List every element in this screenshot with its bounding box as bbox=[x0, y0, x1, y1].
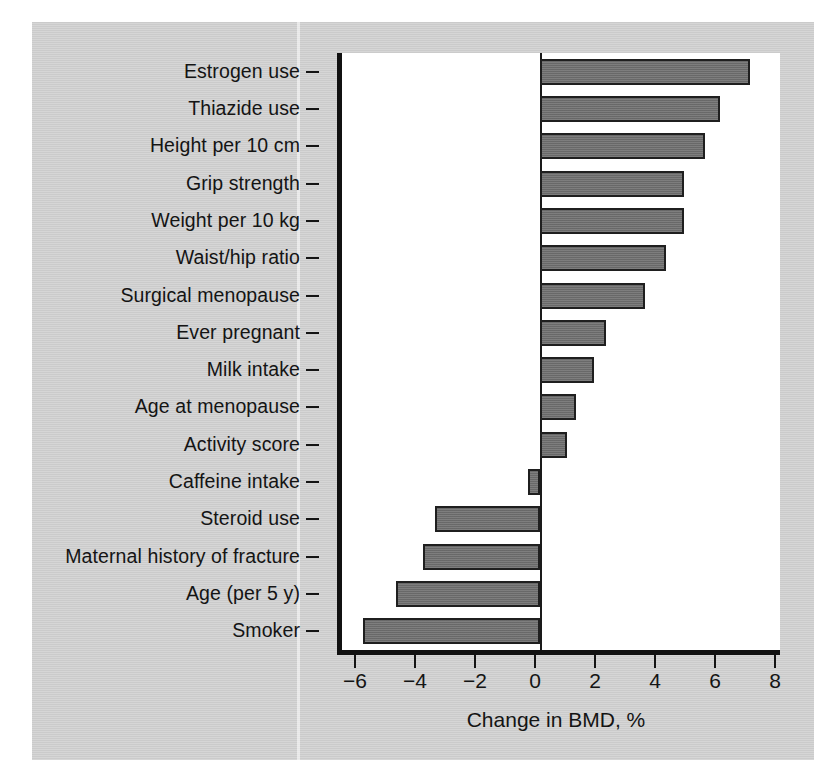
x-axis-tick bbox=[594, 655, 596, 668]
figure-panel: Estrogen useThiazide useHeight per 10 cm… bbox=[32, 22, 814, 760]
x-axis: −6−4−202468 bbox=[337, 655, 775, 715]
x-axis-tick bbox=[774, 655, 776, 668]
x-axis-tick-label: 4 bbox=[649, 670, 661, 691]
x-axis-tick-label: 0 bbox=[529, 670, 541, 691]
y-axis-tick bbox=[306, 183, 319, 185]
bar bbox=[540, 357, 594, 383]
y-axis-tick bbox=[306, 518, 319, 520]
y-axis-tick bbox=[306, 406, 319, 408]
y-axis-tick bbox=[306, 444, 319, 446]
y-axis-label: Height per 10 cm bbox=[150, 136, 300, 156]
x-axis-tick bbox=[714, 655, 716, 668]
bar bbox=[540, 133, 705, 159]
bar bbox=[540, 394, 576, 420]
y-axis-labels: Estrogen useThiazide useHeight per 10 cm… bbox=[32, 53, 319, 650]
bar bbox=[540, 320, 606, 346]
y-axis-tick bbox=[306, 369, 319, 371]
x-axis-tick-label: 2 bbox=[589, 670, 601, 691]
y-axis-tick bbox=[306, 71, 319, 73]
y-axis-label: Age at menopause bbox=[135, 397, 300, 417]
y-axis-label: Milk intake bbox=[207, 360, 300, 380]
y-axis-tick bbox=[306, 593, 319, 595]
y-axis-tick bbox=[306, 481, 319, 483]
y-axis-label: Grip strength bbox=[186, 174, 300, 194]
y-axis-tick bbox=[306, 257, 319, 259]
y-axis-tick bbox=[306, 332, 319, 334]
y-axis-label: Maternal history of fracture bbox=[65, 547, 300, 567]
y-axis-label: Activity score bbox=[184, 435, 300, 455]
y-axis-tick bbox=[306, 295, 319, 297]
y-axis-label: Ever pregnant bbox=[176, 323, 300, 343]
y-axis-tick bbox=[306, 145, 319, 147]
y-axis-label: Caffeine intake bbox=[169, 472, 300, 492]
bar bbox=[363, 618, 540, 644]
bar bbox=[540, 208, 684, 234]
x-axis-tick-label: −4 bbox=[403, 670, 427, 691]
y-axis-label: Steroid use bbox=[200, 509, 300, 529]
bar bbox=[540, 96, 720, 122]
bar bbox=[435, 506, 540, 532]
x-axis-tick bbox=[354, 655, 356, 668]
y-axis-label: Smoker bbox=[232, 621, 300, 641]
bar bbox=[540, 171, 684, 197]
y-axis-tick bbox=[306, 108, 319, 110]
y-axis-label: Age (per 5 y) bbox=[186, 584, 300, 604]
y-axis-label: Weight per 10 kg bbox=[151, 211, 300, 231]
y-axis-label: Surgical menopause bbox=[120, 286, 300, 306]
x-axis-tick bbox=[534, 655, 536, 668]
y-axis-tick bbox=[306, 220, 319, 222]
bar bbox=[540, 432, 567, 458]
bar bbox=[540, 59, 750, 85]
bar bbox=[528, 469, 540, 495]
x-axis-tick bbox=[414, 655, 416, 668]
y-axis-label: Thiazide use bbox=[188, 99, 300, 119]
x-axis-title: Change in BMD, % bbox=[337, 708, 775, 732]
x-axis-tick-label: 6 bbox=[709, 670, 721, 691]
x-axis-tick bbox=[654, 655, 656, 668]
bar bbox=[396, 581, 540, 607]
bar bbox=[540, 245, 666, 271]
plot-area bbox=[337, 53, 780, 655]
bar bbox=[423, 544, 540, 570]
x-axis-tick-label: 8 bbox=[769, 670, 781, 691]
y-axis-tick bbox=[306, 556, 319, 558]
x-axis-tick-label: −2 bbox=[463, 670, 487, 691]
bar bbox=[540, 283, 645, 309]
y-axis-label: Estrogen use bbox=[184, 62, 300, 82]
y-axis-tick bbox=[306, 630, 319, 632]
x-axis-tick bbox=[474, 655, 476, 668]
x-axis-tick-label: −6 bbox=[343, 670, 367, 691]
y-axis-label: Waist/hip ratio bbox=[176, 248, 300, 268]
